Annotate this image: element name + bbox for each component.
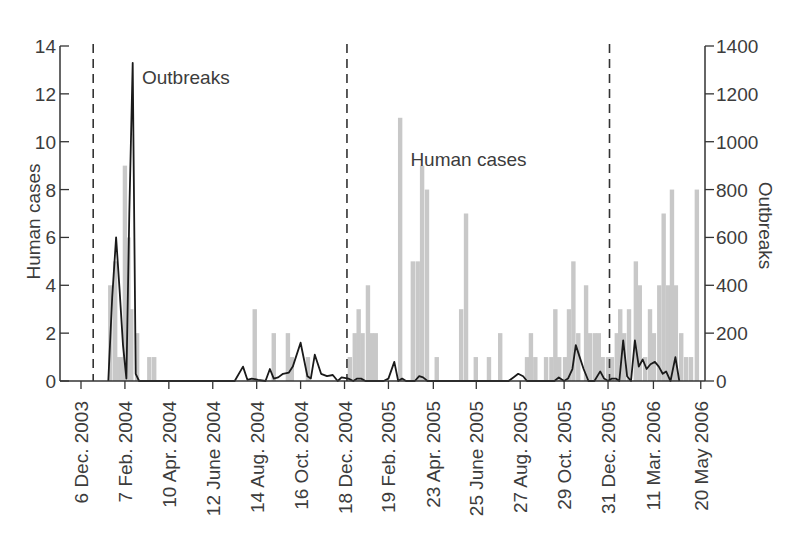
bar — [684, 357, 688, 381]
bar — [588, 333, 592, 381]
x-tick-label: 6 Dec. 2003 — [71, 401, 92, 503]
bar — [353, 333, 357, 381]
bar — [498, 333, 502, 381]
left-y-tick-label: 2 — [45, 323, 56, 344]
bar — [593, 333, 597, 381]
x-tick-label: 31 Dec. 2005 — [598, 401, 619, 514]
bar — [670, 190, 674, 381]
x-tick-label: 27 Aug. 2005 — [510, 401, 531, 513]
x-tick-label: 23 Apr. 2005 — [423, 401, 444, 508]
bar — [459, 309, 463, 381]
x-tick-label: 10 Apr. 2004 — [159, 401, 180, 508]
bar — [533, 357, 537, 381]
bar — [544, 357, 548, 381]
right-y-tick-label: 1200 — [716, 84, 758, 105]
bar — [425, 190, 429, 381]
chart-canvas: 0246810121402004006008001000120014006 De… — [0, 0, 801, 552]
bar — [360, 333, 364, 381]
x-tick-label: 29 Oct. 2005 — [554, 401, 575, 510]
x-tick-label: 18 Dec. 2004 — [335, 401, 356, 514]
bar — [129, 309, 133, 381]
x-tick-label: 20 May 2006 — [691, 401, 712, 511]
right-y-tick-label: 600 — [716, 227, 748, 248]
bar — [348, 357, 352, 381]
right-y-tick-label: 400 — [716, 275, 748, 296]
bar — [416, 261, 420, 381]
bar — [152, 357, 156, 381]
bar — [411, 261, 415, 381]
bar — [435, 357, 439, 381]
bar — [563, 357, 567, 381]
bar — [695, 190, 699, 381]
right-y-tick-label: 1000 — [716, 132, 758, 153]
right-y-tick-label: 1400 — [716, 36, 758, 57]
left-y-tick-label: 6 — [45, 227, 56, 248]
bar — [356, 309, 360, 381]
period-divider-lines — [93, 44, 609, 381]
left-axis-title: Human cases — [23, 163, 44, 279]
bar — [652, 333, 656, 381]
bar — [584, 285, 588, 381]
left-y-tick-label: 4 — [45, 275, 56, 296]
x-tick-label: 11 Mar. 2006 — [643, 401, 664, 511]
right-y-tick-label: 800 — [716, 180, 748, 201]
bar — [398, 118, 402, 381]
right-axis-title: Outbreaks — [755, 182, 776, 270]
bar — [648, 309, 652, 381]
bar — [420, 166, 424, 381]
bar — [610, 357, 614, 381]
left-y-tick-label: 8 — [45, 180, 56, 201]
bar — [366, 285, 370, 381]
x-tick-label: 16 Oct. 2004 — [291, 401, 312, 510]
left-y-tick-label: 12 — [35, 84, 56, 105]
annotation-label: Human cases — [410, 149, 526, 170]
bar — [689, 357, 693, 381]
right-y-tick-label: 200 — [716, 323, 748, 344]
bar — [147, 357, 151, 381]
bar — [661, 214, 665, 382]
left-y-tick-label: 0 — [45, 371, 56, 392]
bar — [567, 309, 571, 381]
bar — [487, 357, 491, 381]
bar — [464, 214, 468, 382]
bar — [253, 309, 257, 381]
bar — [679, 333, 683, 381]
bar — [553, 309, 557, 381]
bar — [474, 357, 478, 381]
bar — [370, 333, 374, 381]
x-tick-label: 19 Feb. 2005 — [378, 401, 399, 513]
left-y-tick-label: 14 — [35, 36, 57, 57]
left-y-tick-label: 10 — [35, 132, 56, 153]
x-tick-label: 12 June 2004 — [203, 401, 224, 517]
x-tick-label: 14 Aug. 2004 — [247, 401, 268, 513]
bar — [627, 309, 631, 381]
bar — [549, 357, 553, 381]
bar — [525, 357, 529, 381]
bar — [666, 285, 670, 381]
right-y-tick-label: 0 — [716, 371, 727, 392]
human-cases-bars — [108, 118, 699, 381]
x-tick-label: 25 June 2005 — [466, 401, 487, 516]
bar — [529, 333, 533, 381]
annotation-label: Outbreaks — [142, 67, 230, 88]
bar — [374, 333, 378, 381]
x-tick-label: 7 Feb. 2004 — [115, 401, 136, 503]
